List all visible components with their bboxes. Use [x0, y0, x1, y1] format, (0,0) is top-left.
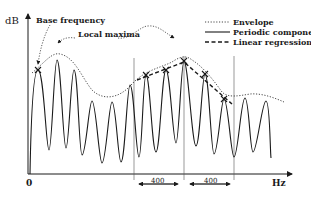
interval-label-2: 400 [204, 177, 217, 185]
envelope-curve [32, 54, 284, 102]
spectrum-diagram: dB Hz 0 Base frequency Local maxima Enve… [0, 0, 311, 201]
local-maxima-label: Local maxima [78, 29, 140, 39]
local-maxima-markers [35, 58, 227, 102]
legend-envelope-label: Envelope [233, 17, 274, 27]
linear-regression-line [137, 62, 232, 104]
interval-label-1: 400 [151, 177, 164, 185]
base-frequency-label: Base frequency [36, 15, 105, 25]
legend-regression-label: Linear regression [233, 37, 311, 47]
base-frequency-arrow [38, 25, 50, 64]
y-axis-label: dB [5, 15, 19, 26]
x-axis-label: Hz [272, 178, 286, 188]
legend-samples [205, 22, 230, 42]
legend-periodic-label: Periodic component [233, 27, 311, 37]
periodic-component-curve [30, 60, 271, 174]
origin-label: 0 [26, 178, 32, 188]
guide-lines [134, 56, 234, 180]
local-maxima-arrow-left [58, 38, 75, 43]
